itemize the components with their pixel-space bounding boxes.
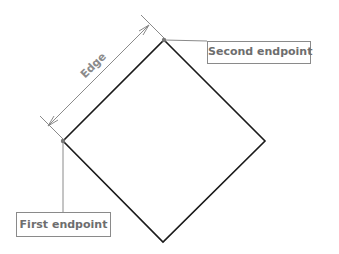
dimension-tick-end xyxy=(141,15,164,38)
dimension-line xyxy=(48,25,149,126)
edge-dimension xyxy=(40,15,164,139)
second-endpoint-leader xyxy=(164,40,207,41)
second-endpoint-dot xyxy=(162,38,166,42)
first-endpoint-label: First endpoint xyxy=(16,212,111,237)
first-endpoint-dot xyxy=(61,139,65,143)
second-endpoint-label: Second endpoint xyxy=(207,41,311,64)
